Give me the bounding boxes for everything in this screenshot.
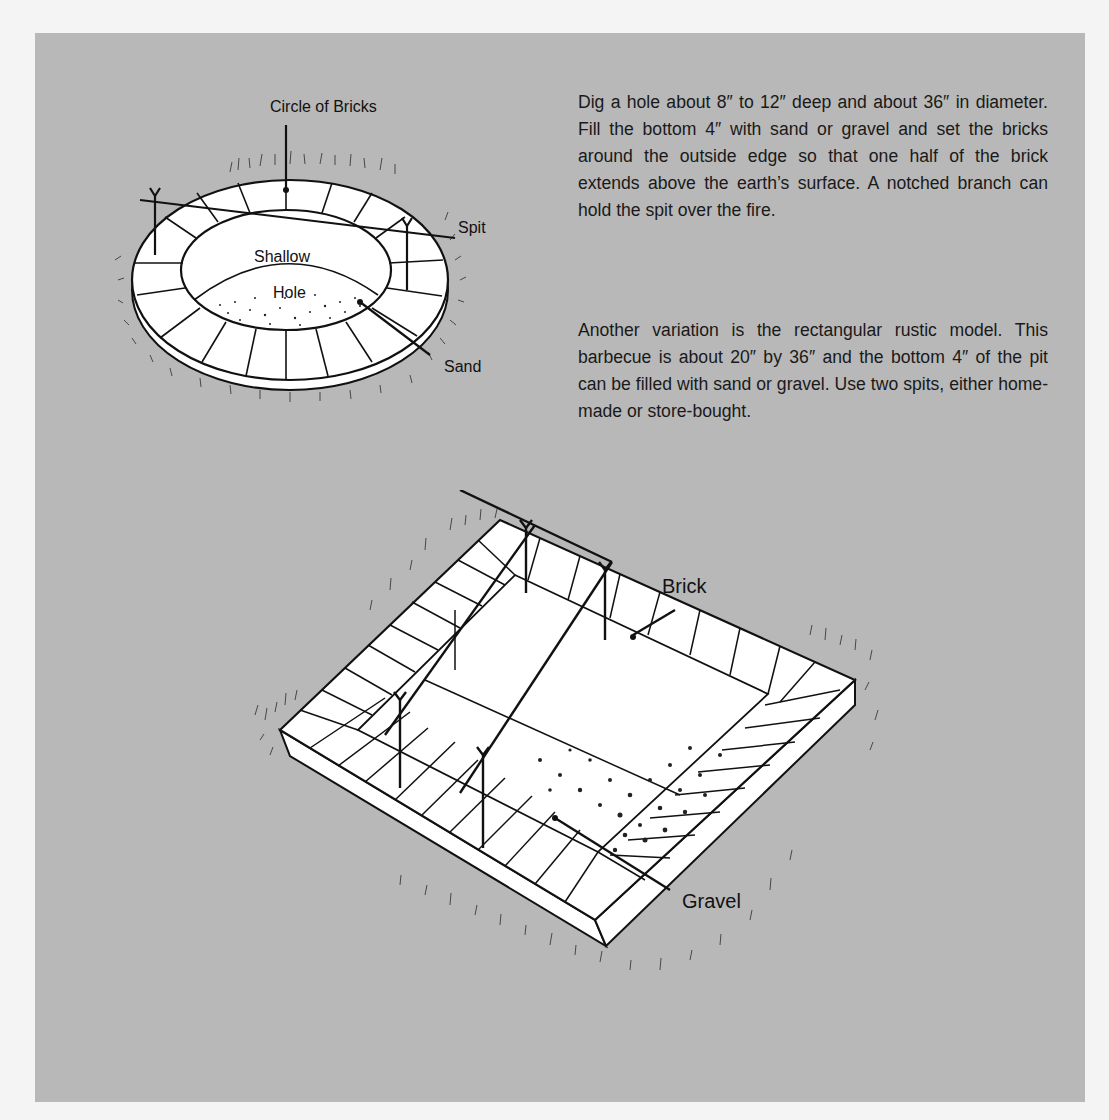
label-spit: Spit — [458, 219, 486, 236]
paragraph-round-pit: Dig a hole about 8″ to 12″ deep and abou… — [578, 89, 1048, 224]
label-shallow: Shallow — [254, 248, 310, 265]
round-pit-diagram: Circle of Bricks Spit Shallow Hole Sand — [110, 80, 530, 420]
paragraph-rectangular-pit: Another variation is the rectangular rus… — [578, 317, 1048, 425]
label-brick: Brick — [662, 575, 707, 597]
label-sand: Sand — [444, 358, 481, 375]
rectangular-pit-diagram: Brick Gravel — [250, 490, 900, 1010]
label-hole: Hole — [273, 284, 306, 301]
label-circle-of-bricks: Circle of Bricks — [270, 98, 377, 115]
label-gravel: Gravel — [682, 890, 741, 912]
